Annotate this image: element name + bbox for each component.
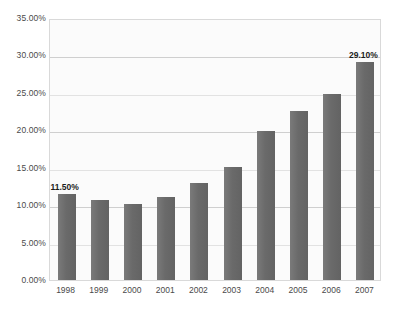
- y-axis-tick-label: 20.00%: [0, 125, 46, 135]
- y-axis-tick-label: 15.00%: [0, 163, 46, 173]
- bar: [356, 62, 374, 280]
- y-axis-tick-label: 5.00%: [0, 238, 46, 248]
- y-axis-tick-label: 35.00%: [0, 13, 46, 23]
- bar: [257, 131, 275, 280]
- y-axis-tick-label: 25.00%: [0, 88, 46, 98]
- x-axis-tick-label: 2007: [348, 285, 381, 295]
- bar: [290, 111, 308, 280]
- y-axis-tick-label: 30.00%: [0, 50, 46, 60]
- bar: [124, 204, 142, 280]
- bar-value-label: 29.10%: [347, 50, 380, 60]
- bar-value-label: 11.50%: [48, 182, 81, 192]
- x-axis-tick-label: 2002: [182, 285, 215, 295]
- x-axis-tick-label: 2003: [215, 285, 248, 295]
- bar: [190, 183, 208, 280]
- x-axis: 1998199920002001200220032004200520062007: [49, 285, 381, 305]
- bar: [157, 197, 175, 280]
- x-axis-tick-label: 2006: [315, 285, 348, 295]
- x-axis-tick-label: 1998: [49, 285, 82, 295]
- y-axis-tick-label: 10.00%: [0, 200, 46, 210]
- x-axis-tick-label: 2004: [248, 285, 281, 295]
- x-axis-tick-label: 2001: [149, 285, 182, 295]
- x-axis-tick-label: 2000: [115, 285, 148, 295]
- bar: [58, 194, 76, 280]
- bars-layer: [50, 20, 380, 280]
- bar: [224, 167, 242, 280]
- bar: [323, 94, 341, 280]
- x-axis-tick-label: 1999: [82, 285, 115, 295]
- plot-area: 11.50%29.10%: [49, 19, 381, 281]
- x-axis-tick-label: 2005: [281, 285, 314, 295]
- bar-chart: 0.00%5.00%10.00%15.00%20.00%25.00%30.00%…: [0, 0, 395, 316]
- bar: [91, 200, 109, 280]
- y-axis-tick-label: 0.00%: [0, 275, 46, 285]
- y-axis: 0.00%5.00%10.00%15.00%20.00%25.00%30.00%…: [0, 19, 46, 281]
